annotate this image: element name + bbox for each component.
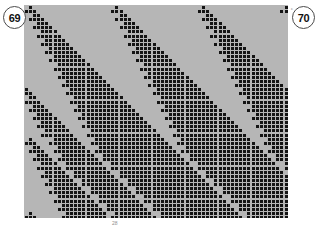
- corner-mark: c: [291, 7, 293, 11]
- page-badge-right-label: 70: [298, 12, 310, 24]
- page-badge-left: 69: [3, 6, 26, 29]
- page-badge-left-label: 69: [9, 12, 21, 24]
- cellular-automaton-grid: [24, 5, 288, 218]
- cellular-automaton-figure: [24, 5, 288, 218]
- figure-caption-mark: 28: [112, 221, 118, 226]
- page-badge-right: 70: [292, 6, 315, 29]
